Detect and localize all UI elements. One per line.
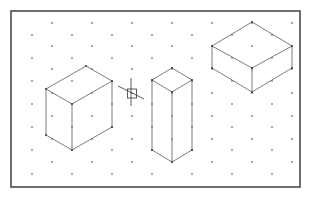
grid-dot — [231, 126, 233, 128]
shape-vertex — [151, 149, 153, 151]
grid-dot — [211, 161, 213, 163]
grid-dot — [251, 138, 253, 140]
grid-dot — [191, 57, 193, 59]
grid-dot — [71, 173, 73, 175]
shape-vertex — [251, 91, 253, 93]
grid-dot — [271, 173, 273, 175]
grid-dot — [31, 57, 33, 59]
shape-vertex — [291, 67, 293, 69]
grid-dot — [231, 149, 233, 151]
shape-vertex — [191, 79, 193, 81]
grid-dot — [211, 115, 213, 117]
shape-vertex — [45, 88, 47, 90]
grid-dot — [51, 68, 53, 70]
shape-vertex — [151, 79, 153, 81]
grid-dot — [291, 92, 293, 94]
grid-dot — [271, 126, 273, 128]
shape-vertex — [111, 80, 113, 82]
grid-dot — [171, 22, 173, 24]
grid-dot — [91, 45, 93, 47]
grid-dot — [131, 161, 133, 163]
grid-dot — [131, 115, 133, 117]
shape-vertex — [251, 21, 253, 23]
grid-dot — [131, 22, 133, 24]
grid-dot — [211, 22, 213, 24]
grid-dot — [231, 173, 233, 175]
grid-dot — [91, 161, 93, 163]
grid-dot — [211, 138, 213, 140]
grid-dot — [251, 115, 253, 117]
grid-dot — [151, 34, 153, 36]
shape-vertex — [85, 65, 87, 67]
shape-vertex — [45, 134, 47, 136]
grid-dot — [71, 34, 73, 36]
grid-dot — [51, 45, 53, 47]
grid-dot — [51, 22, 53, 24]
shape-vertex — [211, 45, 213, 47]
shape-vertex — [291, 45, 293, 47]
grid-dot — [111, 57, 113, 59]
grid-dot — [131, 45, 133, 47]
shape-vertex — [171, 161, 173, 163]
grid-dot — [271, 149, 273, 151]
grid-dot — [31, 103, 33, 105]
drawing-frame — [11, 11, 300, 187]
grid-dot — [151, 57, 153, 59]
grid-dot — [31, 34, 33, 36]
grid-dot — [111, 173, 113, 175]
grid-dot — [31, 149, 33, 151]
grid-dot — [51, 161, 53, 163]
grid-dot — [131, 68, 133, 70]
drawing-canvas[interactable] — [0, 0, 313, 197]
shape-vertex — [191, 149, 193, 151]
grid-dot — [91, 22, 93, 24]
grid-dot — [291, 161, 293, 163]
grid-dot — [231, 103, 233, 105]
shape-vertex — [111, 126, 113, 128]
grid-dot — [251, 45, 253, 47]
grid-dot — [211, 92, 213, 94]
grid-dot — [191, 173, 193, 175]
grid-dot — [91, 115, 93, 117]
grid-dot — [31, 80, 33, 82]
grid-dot — [291, 22, 293, 24]
grid-dot — [31, 126, 33, 128]
shape-vertex — [171, 67, 173, 69]
grid-dot — [271, 103, 273, 105]
shape-vertex — [211, 67, 213, 69]
shape-vertex — [71, 149, 73, 151]
grid-dot — [151, 173, 153, 175]
shape-vertex — [71, 103, 73, 105]
grid-dot — [171, 45, 173, 47]
grid-dot — [291, 115, 293, 117]
grid-dot — [111, 34, 113, 36]
grid-dot — [71, 57, 73, 59]
shape-vertex — [171, 91, 173, 93]
grid-dot — [291, 138, 293, 140]
grid-dot — [251, 161, 253, 163]
grid-dot — [31, 173, 33, 175]
grid-dot — [71, 80, 73, 82]
shape-vertex — [251, 67, 253, 69]
grid-dot — [131, 138, 133, 140]
grid-dot — [111, 149, 113, 151]
grid-dot — [191, 34, 193, 36]
grid-dot — [51, 115, 53, 117]
